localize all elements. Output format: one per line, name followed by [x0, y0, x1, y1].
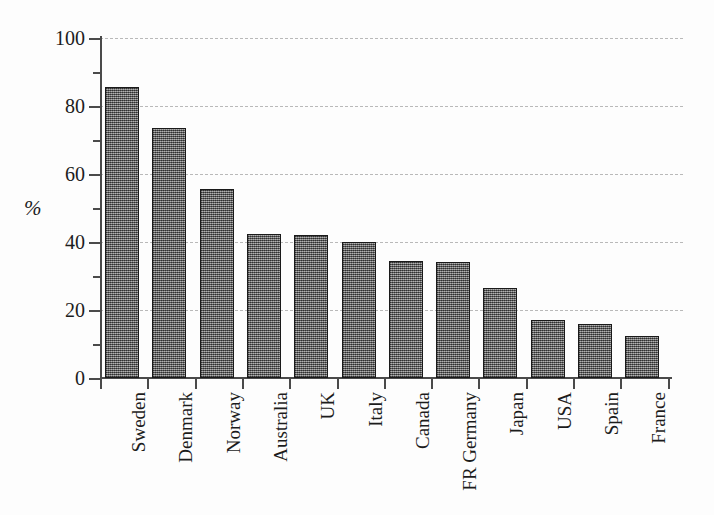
- y-tick-label-100: 100: [25, 28, 85, 48]
- x-tick-3: [242, 378, 244, 389]
- category-label-usa: USA: [555, 392, 574, 430]
- gridline-40: [100, 242, 683, 243]
- x-tick-0: [100, 378, 102, 389]
- chart-page: 020406080100 % SwedenDenmarkNorwayAustra…: [0, 0, 714, 515]
- gridline-100: [100, 38, 683, 39]
- bar-canada: [389, 261, 423, 378]
- category-label-norway: Norway: [224, 392, 243, 453]
- category-label-australia: Australia: [271, 392, 290, 462]
- bar-italy: [342, 242, 376, 378]
- bar-australia: [247, 234, 281, 379]
- y-tick-40: [89, 242, 101, 244]
- x-tick-8: [478, 378, 480, 389]
- x-tick-2: [195, 378, 197, 389]
- bar-spain: [578, 324, 612, 378]
- gridline-80: [100, 106, 683, 107]
- bar-norway: [200, 189, 234, 378]
- x-tick-7: [431, 378, 433, 389]
- y-tick-label-60: 60: [25, 164, 85, 184]
- bar-chart: 020406080100 % SwedenDenmarkNorwayAustra…: [0, 0, 714, 515]
- y-tick-label-0: 0: [25, 368, 85, 388]
- bar-usa: [531, 320, 565, 378]
- y-tick-60: [89, 174, 101, 176]
- bar-fr-germany: [436, 262, 470, 378]
- y-tick-minor-30: [93, 276, 101, 278]
- bar-france: [625, 336, 659, 379]
- y-tick-label-20: 20: [25, 300, 85, 320]
- x-tick-10: [573, 378, 575, 389]
- y-tick-minor-50: [93, 208, 101, 210]
- y-tick-label-80: 80: [25, 96, 85, 116]
- y-tick-20: [89, 310, 101, 312]
- category-label-fr-germany: FR Germany: [460, 392, 479, 491]
- y-tick-label-40: 40: [25, 232, 85, 252]
- bar-denmark: [152, 128, 186, 378]
- y-tick-minor-90: [93, 72, 101, 74]
- x-tick-5: [337, 378, 339, 389]
- category-label-japan: Japan: [507, 392, 526, 435]
- y-tick-80: [89, 106, 101, 108]
- x-tick-6: [384, 378, 386, 389]
- category-label-spain: Spain: [602, 392, 621, 435]
- category-label-italy: Italy: [366, 392, 385, 427]
- y-axis-title: %: [24, 196, 42, 221]
- bar-sweden: [105, 87, 139, 378]
- x-tick-12: [668, 378, 670, 389]
- bar-uk: [294, 235, 328, 378]
- y-tick-100: [89, 38, 101, 40]
- category-label-sweden: Sweden: [129, 392, 148, 452]
- y-tick-minor-70: [93, 140, 101, 142]
- x-tick-11: [620, 378, 622, 389]
- category-label-canada: Canada: [413, 392, 432, 449]
- category-label-denmark: Denmark: [176, 392, 195, 463]
- x-tick-9: [526, 378, 528, 389]
- bar-japan: [483, 288, 517, 378]
- x-tick-4: [289, 378, 291, 389]
- category-label-uk: UK: [318, 392, 337, 419]
- gridline-60: [100, 174, 683, 175]
- category-label-france: France: [649, 392, 668, 444]
- y-tick-minor-10: [93, 344, 101, 346]
- x-tick-1: [147, 378, 149, 389]
